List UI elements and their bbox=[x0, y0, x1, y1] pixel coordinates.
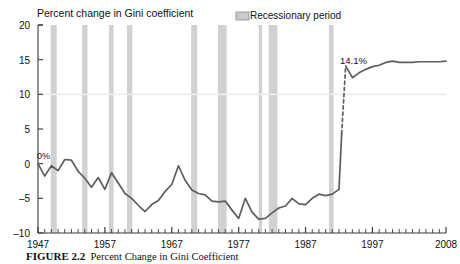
recession-band bbox=[329, 25, 334, 233]
y-axis-tick-label: 20 bbox=[4, 20, 30, 31]
chart-svg bbox=[0, 0, 460, 264]
x-axis-tick-label: 1957 bbox=[83, 239, 127, 250]
x-axis-tick-label: 1977 bbox=[217, 239, 261, 250]
y-axis-tick-label: –10 bbox=[4, 228, 30, 239]
legend-label-recessionary-period: Recessionary period bbox=[250, 11, 341, 21]
recession-band bbox=[82, 25, 87, 233]
x-axis-tick-label: 1967 bbox=[150, 239, 194, 250]
chart-plot-area bbox=[0, 0, 460, 264]
data-line-break-dashed bbox=[342, 66, 346, 134]
figure-caption: FIGURE 2.2 Percent Change in Gini Coeffi… bbox=[26, 250, 238, 262]
y-axis-tick-label: 0 bbox=[4, 159, 30, 170]
recession-band bbox=[259, 25, 262, 233]
recession-band bbox=[191, 25, 197, 233]
y-axis-tick-label: 5 bbox=[4, 124, 30, 135]
figure-caption-label: FIGURE 2.2 bbox=[26, 250, 85, 262]
legend-swatch-recessionary-period bbox=[236, 12, 249, 20]
annotation-zero-percent: 0% bbox=[37, 152, 50, 161]
x-axis-tick-label: 1947 bbox=[16, 239, 60, 250]
recession-band bbox=[269, 25, 278, 233]
figure-container: Percent change in Gini coefficient Reces… bbox=[0, 0, 460, 264]
x-axis-tick-label: 1997 bbox=[350, 239, 394, 250]
chart-axis-title: Percent change in Gini coefficient bbox=[37, 8, 193, 19]
recession-band bbox=[127, 25, 132, 233]
data-line-break-approach bbox=[339, 134, 342, 189]
y-axis-tick-label: 15 bbox=[4, 55, 30, 66]
figure-caption-text: Percent Change in Gini Coefficient bbox=[91, 251, 239, 262]
x-axis-tick-label: 1987 bbox=[284, 239, 328, 250]
recession-band bbox=[109, 25, 114, 233]
recession-band bbox=[51, 25, 57, 233]
x-axis-tick-label: 2008 bbox=[424, 239, 460, 250]
annotation-peak-value: 14.1% bbox=[340, 56, 367, 66]
y-axis-tick-label: –5 bbox=[4, 193, 30, 204]
y-axis-tick-label: 10 bbox=[4, 89, 30, 100]
